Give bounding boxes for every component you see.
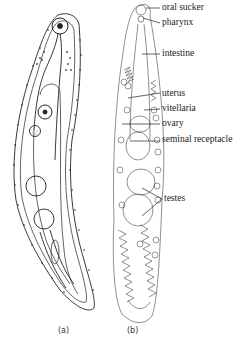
fluke-diagram [0,0,236,348]
label-vitellaria: vitellaria [162,103,196,113]
panel-b-drawing [113,4,164,322]
panel-a-drawing [13,14,94,310]
label-intestine: intestine [162,48,194,58]
panel-a-caption: (a) [58,326,69,335]
label-ovary: ovary [162,118,184,128]
label-uterus: uterus [162,88,185,98]
panel-b-caption: (b) [127,326,138,335]
label-testes: testes [164,193,185,203]
label-pharynx: pharynx [162,17,193,27]
label-oral-sucker: oral sucker [162,2,204,12]
label-seminal-receptacle: seminal receptacle [162,134,232,144]
